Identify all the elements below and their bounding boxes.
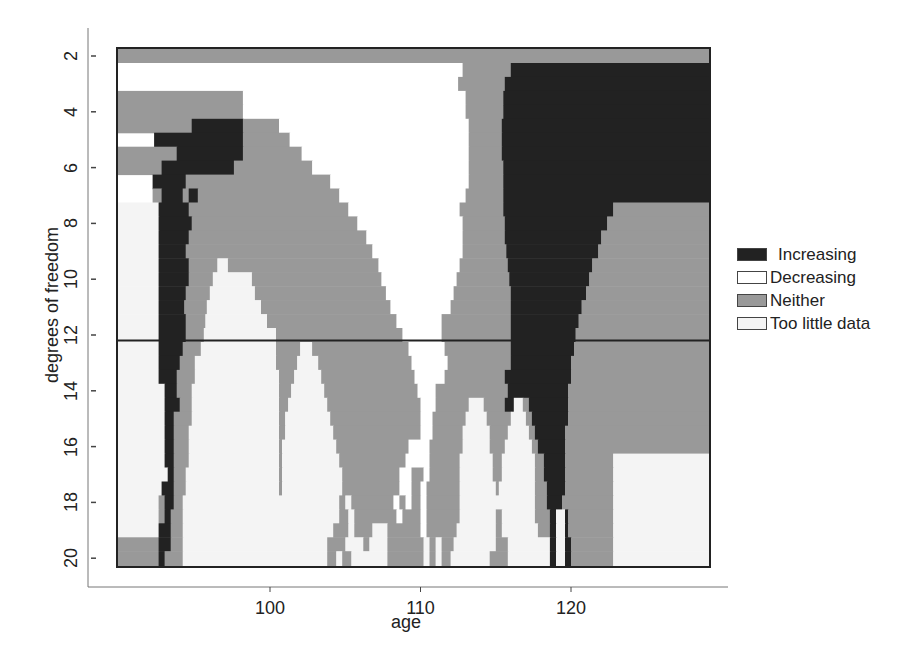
x-tick-label: 100 — [255, 598, 285, 619]
y-tick-label: 20 — [61, 548, 82, 568]
y-tick-label: 2 — [61, 51, 82, 61]
legend-label: Increasing — [778, 245, 856, 265]
legend-swatch-too-little-data — [737, 317, 767, 330]
y-tick-label: 16 — [61, 437, 82, 457]
y-axis-label: degrees of freedom — [42, 227, 63, 383]
legend-label: Neither — [770, 291, 825, 311]
legend-item-increasing: Increasing — [737, 243, 870, 266]
legend-swatch-decreasing — [737, 271, 767, 284]
legend-label: Decreasing — [770, 268, 856, 288]
y-axis — [88, 28, 96, 587]
legend-label: Too little data — [770, 314, 870, 334]
y-tick-label: 10 — [61, 269, 82, 289]
x-axis-label: age — [391, 612, 421, 633]
legend-swatch-increasing — [737, 248, 767, 261]
y-tick-label: 6 — [61, 163, 82, 173]
y-tick-label: 4 — [61, 107, 82, 117]
legend: Increasing Decreasing Neither Too little… — [737, 243, 870, 335]
x-tick-label: 120 — [556, 598, 586, 619]
legend-swatch-neither — [737, 294, 767, 307]
y-tick-label: 18 — [61, 492, 82, 512]
y-tick-label: 12 — [61, 325, 82, 345]
y-tick-label: 8 — [61, 218, 82, 228]
legend-item-decreasing: Decreasing — [737, 266, 870, 289]
heatmap-cells — [117, 48, 711, 568]
legend-item-too-little-data: Too little data — [737, 312, 870, 335]
y-tick-label: 14 — [61, 381, 82, 401]
legend-item-neither: Neither — [737, 289, 870, 312]
x-axis — [88, 587, 728, 592]
